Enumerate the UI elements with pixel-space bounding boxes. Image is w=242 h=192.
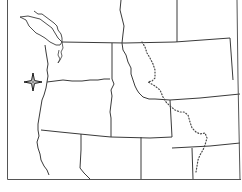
pacific-northwest-map	[0, 0, 242, 192]
washington-oregon-border	[47, 79, 110, 82]
pacific-coastline	[37, 45, 49, 175]
idaho-montana-border	[122, 43, 155, 99]
oregon-south-border	[41, 130, 111, 137]
vancouver-island-coast	[20, 16, 62, 45]
idaho-south-border	[111, 118, 172, 138]
canada-us-border	[62, 38, 230, 43]
utah-colorado-border	[192, 148, 193, 179]
idaho-montana-border-north	[120, 0, 124, 43]
montana-dakota-border	[230, 38, 233, 80]
oregon-idaho-border	[110, 79, 114, 118]
map-container	[0, 0, 242, 192]
right-edge-border	[237, 0, 240, 180]
wyoming-south-border	[172, 143, 240, 148]
montana-wyoming-border	[155, 94, 240, 100]
location-star-icon	[24, 73, 42, 91]
continental-divide	[142, 42, 207, 172]
california-nevada-border	[80, 134, 90, 179]
